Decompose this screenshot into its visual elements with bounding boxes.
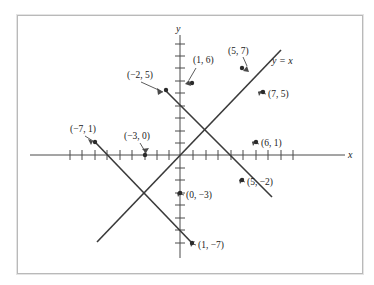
x-axis-label: x [347, 149, 353, 160]
coordinate-plane: (−2, 5) (1, 6) (5, 7) (7, 5) (−7, 1) (−3… [0, 0, 374, 285]
y-axis-label: y [175, 23, 181, 34]
line-y-equals-x [97, 50, 281, 242]
point-label-neg7-1: (−7, 1) [70, 124, 96, 135]
point-label-5-neg2: (5, −2) [247, 177, 273, 188]
point-label-6-1: (6, 1) [261, 138, 282, 149]
point-label-5-7: (5, 7) [228, 46, 249, 57]
point-label-1-neg7: (1, −7) [198, 240, 224, 251]
point-label-0-neg3: (0, −3) [186, 190, 212, 201]
point-marker [240, 178, 244, 182]
point-marker [164, 88, 168, 92]
figure-container: (−2, 5) (1, 6) (5, 7) (7, 5) (−7, 1) (−3… [0, 0, 374, 285]
point-marker [190, 241, 194, 245]
point-label-7-5: (7, 5) [268, 89, 289, 100]
point-label-neg2-5: (−2, 5) [127, 70, 153, 81]
point-marker [178, 191, 182, 195]
point-marker [143, 153, 147, 157]
point-marker [254, 140, 258, 144]
leader-lines [85, 57, 266, 245]
point-marker [93, 140, 97, 144]
point-label-1-6: (1, 6) [193, 55, 214, 66]
point-marker [240, 66, 244, 70]
point-marker [261, 90, 265, 94]
line-equation-label: y = x [271, 55, 293, 66]
point-marker [190, 81, 194, 85]
point-label-neg3-0: (−3, 0) [124, 131, 150, 142]
